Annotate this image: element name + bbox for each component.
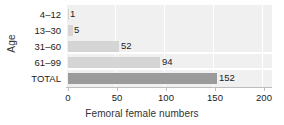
y-tick-label-3: 61–99: [0, 58, 61, 68]
x-axis-line: [66, 87, 272, 88]
y-tick-label-2: 31–60: [0, 42, 61, 52]
x-axis-title: Femoral female numbers: [0, 108, 284, 119]
y-tick-label-0: 4–12: [0, 10, 61, 20]
value-label-31-60: 52: [121, 41, 132, 51]
gridline-200: [262, 5, 263, 87]
x-tick-label-150: 150: [207, 92, 223, 103]
bar-separator-1: [66, 52, 272, 54]
bar-61-99: [68, 57, 160, 68]
bar-chart: Age 4–12 13–30 31–60 61–99 TOTAL 1 5 52 …: [0, 0, 284, 125]
plot-panel: [66, 5, 272, 87]
x-tickmark-100: [166, 88, 167, 91]
x-tick-label-100: 100: [158, 92, 174, 103]
value-label-4-12: 1: [70, 9, 75, 19]
y-tick-label-1: 13–30: [0, 26, 61, 36]
value-label-total: 152: [219, 73, 235, 83]
value-label-13-30: 5: [74, 25, 79, 35]
value-label-61-99: 94: [162, 57, 173, 67]
x-tick-label-50: 50: [112, 92, 123, 103]
x-tickmark-0: [68, 88, 69, 91]
bar-13-30: [68, 25, 73, 36]
x-tickmark-200: [264, 88, 265, 91]
y-axis-tick-labels: 4–12 13–30 31–60 61–99 TOTAL: [0, 5, 64, 87]
y-tick-label-4: TOTAL: [0, 74, 61, 84]
x-tickmark-150: [215, 88, 216, 91]
bar-31-60: [68, 41, 119, 52]
bar-4-12: [68, 9, 69, 20]
x-tick-label-0: 0: [65, 92, 70, 103]
x-tickmark-50: [117, 88, 118, 91]
bar-total: [68, 73, 217, 84]
bar-separator-2: [66, 68, 272, 70]
x-tick-label-200: 200: [256, 92, 272, 103]
